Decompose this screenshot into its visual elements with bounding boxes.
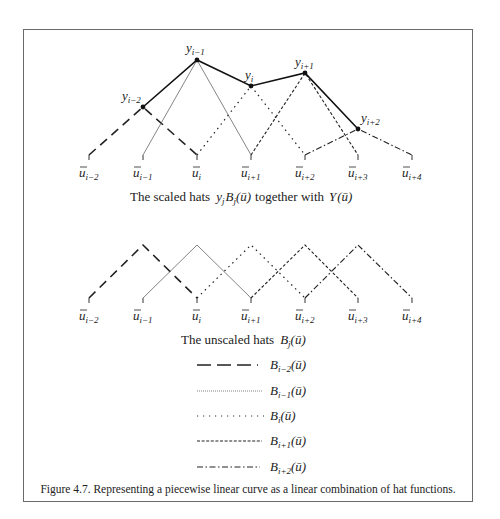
svg-text:Bi+1(ū): Bi+1(ū): [270, 433, 306, 450]
scaled-hat-b-i-minus-2: [89, 107, 197, 155]
knot-ticks-bottom: [89, 298, 412, 303]
scaled-hat-b-i-plus-2: [305, 129, 412, 155]
svg-text:ui+1: ui+1: [241, 165, 261, 182]
legend-item-b-i-plus-2: Bi+2(ū): [197, 459, 306, 476]
figure-canvas: yi−2 yi−1 yi yi+1 yi+2 ui−2 ui−1 ui ui+1…: [0, 0, 500, 519]
svg-text:ui+1: ui+1: [241, 308, 261, 325]
control-point-dot: [356, 127, 361, 132]
legend-item-b-i-minus-1: Bi−1(ū): [197, 383, 306, 400]
svg-text:Bi−2(ū): Bi−2(ū): [270, 357, 306, 374]
svg-text:Bi(ū): Bi(ū): [270, 408, 296, 425]
svg-text:ui−2: ui−2: [79, 308, 99, 325]
legend-item-b-i-plus-1: Bi+1(ū): [197, 433, 306, 450]
control-point-label: yi+2: [359, 110, 380, 127]
knot-labels-top: ui−2 ui−1 ui ui+1 ui+2 ui+3 ui+4: [79, 165, 422, 182]
svg-text:ui+3: ui+3: [348, 165, 368, 182]
svg-text:ui+3: ui+3: [348, 308, 368, 325]
figure-caption: Figure 4.7. Representing a piecewise lin…: [23, 483, 473, 495]
knot-labels-bottom: ui−2 ui−1 ui ui+1 ui+2 ui+3 ui+4: [79, 308, 422, 325]
scaled-hat-b-i: [197, 86, 305, 155]
unscaled-hats-title: The unscaled hatsBj(ū): [181, 332, 306, 349]
control-point-label: yi: [243, 67, 254, 84]
svg-text:ui: ui: [192, 308, 202, 325]
control-point-label: yi−1: [184, 40, 205, 57]
knot-ticks-top: [89, 155, 412, 160]
control-point-dot: [195, 58, 200, 63]
legend-item-b-i-minus-2: Bi−2(ū): [197, 357, 306, 374]
control-point-dot: [249, 84, 254, 89]
scaled-hats-title: The scaled hatsyjBj(ū)together withY(ū): [130, 189, 352, 206]
svg-text:ui+2: ui+2: [295, 308, 315, 325]
control-point-label: yi+1: [293, 54, 314, 71]
unscaled-hat-b-i: [197, 245, 305, 298]
scaled-hat-b-i-plus-1: [251, 73, 358, 155]
svg-text:ui: ui: [192, 165, 202, 182]
svg-text:ui+2: ui+2: [295, 165, 315, 182]
unscaled-hat-b-i-minus-1: [143, 245, 251, 298]
control-point-label: yi−2: [120, 88, 141, 105]
svg-text:Bi+2(ū): Bi+2(ū): [270, 459, 306, 476]
svg-text:ui−1: ui−1: [133, 165, 153, 182]
unscaled-hats-panel: ui−2 ui−1 ui ui+1 ui+2 ui+3 ui+4 The uns…: [79, 245, 422, 349]
svg-text:Bi−1(ū): Bi−1(ū): [270, 383, 306, 400]
legend-item-b-i: Bi(ū): [197, 408, 296, 425]
svg-text:ui−1: ui−1: [133, 308, 153, 325]
unscaled-hat-b-i-plus-2: [305, 245, 412, 298]
unscaled-hat-b-i-plus-1: [251, 245, 358, 298]
legend: Bi−2(ū) Bi−1(ū) Bi(ū) Bi+1(ū) Bi+2(ū): [197, 357, 306, 476]
control-point-dot: [303, 71, 308, 76]
svg-text:ui+4: ui+4: [402, 308, 422, 325]
unscaled-hat-b-i-minus-2: [89, 245, 197, 298]
scaled-hats-panel: yi−2 yi−1 yi yi+1 yi+2 ui−2 ui−1 ui ui+1…: [79, 40, 422, 206]
svg-text:ui−2: ui−2: [79, 165, 99, 182]
control-point-dot: [141, 105, 146, 110]
svg-text:ui+4: ui+4: [402, 165, 422, 182]
